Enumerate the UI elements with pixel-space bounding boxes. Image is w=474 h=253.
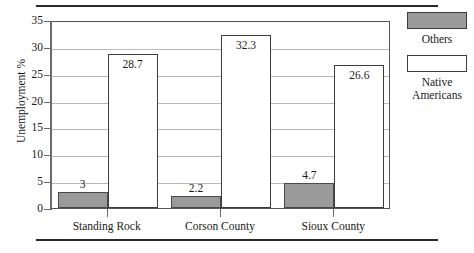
y-axis-line <box>50 21 52 209</box>
bar-native-americans-sioux-county: 26.6 <box>334 65 384 208</box>
chart-legend: Others Native Americans <box>403 12 471 111</box>
bar-chart-figure: Unemployment % 328.72.232.34.726.6 05101… <box>0 0 474 253</box>
y-axis-tick <box>44 102 52 103</box>
y-axis-tick-label: 15 <box>3 122 43 134</box>
bar-others-corson-county: 2.2 <box>171 196 221 208</box>
x-axis-tick-label: Standing Rock <box>73 220 141 233</box>
native-americans-swatch-icon <box>407 55 467 72</box>
y-axis-tick-label: 35 <box>3 15 43 27</box>
y-axis-tick <box>44 75 52 76</box>
legend-label-others: Others <box>403 33 471 46</box>
bar-value-label: 2.2 <box>189 182 203 194</box>
y-axis-tick-label-wrap: 0 <box>0 203 43 215</box>
y-axis-tick <box>44 48 52 49</box>
x-axis-tick <box>107 209 108 217</box>
bar-value-label: 3 <box>80 178 86 190</box>
y-axis-tick-label-wrap: 30 <box>0 42 43 54</box>
y-axis-tick-label-wrap: 20 <box>0 96 43 108</box>
y-axis-tick-label-wrap: 15 <box>0 122 43 134</box>
y-axis-tick-label-wrap: 5 <box>0 176 43 188</box>
y-axis-tick-label-wrap: 10 <box>0 149 43 161</box>
legend-label-native-americans: Native Americans <box>403 76 471 102</box>
others-swatch-icon <box>407 12 467 29</box>
plot-area: 328.72.232.34.726.6 <box>50 21 390 209</box>
gridline <box>51 49 389 50</box>
legend-entry-native-americans: Native Americans <box>403 55 471 102</box>
bar-native-americans-corson-county: 32.3 <box>221 35 271 208</box>
y-axis-tick-label-wrap: 25 <box>0 69 43 81</box>
legend-entry-others: Others <box>403 12 471 46</box>
y-axis-tick-label: 30 <box>3 42 43 54</box>
x-axis-tick <box>220 209 221 217</box>
bottom-rule <box>36 239 438 241</box>
bar-native-americans-standing-rock: 28.7 <box>108 54 158 208</box>
x-axis-tick-label: Sioux County <box>302 220 366 233</box>
bar-value-label: 26.6 <box>349 69 369 81</box>
bar-value-label: 28.7 <box>123 58 143 70</box>
y-axis-tick <box>44 155 52 156</box>
x-axis-tick-label: Corson County <box>185 220 255 233</box>
y-axis-tick-label: 20 <box>3 96 43 108</box>
bar-value-label: 32.3 <box>236 39 256 51</box>
y-axis-tick-label: 25 <box>3 69 43 81</box>
y-axis-tick-label: 0 <box>3 203 43 215</box>
y-axis-tick <box>44 182 52 183</box>
x-axis-tick <box>333 209 334 217</box>
y-axis-tick <box>44 209 52 210</box>
y-axis-tick <box>44 21 52 22</box>
y-axis-tick <box>44 128 52 129</box>
y-axis-tick-label: 5 <box>3 176 43 188</box>
top-rule <box>36 5 438 7</box>
y-axis-tick-label-wrap: 35 <box>0 15 43 27</box>
y-axis-tick-label: 10 <box>3 149 43 161</box>
bar-others-sioux-county: 4.7 <box>284 183 334 208</box>
bar-others-standing-rock: 3 <box>58 192 108 208</box>
bar-value-label: 4.7 <box>302 169 316 181</box>
